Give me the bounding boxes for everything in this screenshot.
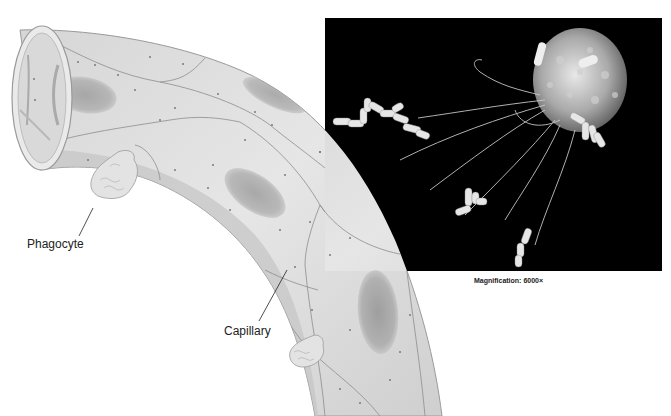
- magnification-caption: Magnification: 6000×: [474, 277, 543, 284]
- capillary-opening: [12, 26, 72, 170]
- capillary-label: Capillary: [224, 324, 271, 338]
- phagocyte-label: Phagocyte: [27, 237, 84, 251]
- sem-micrograph: [319, 18, 662, 356]
- illustration-canvas: [0, 0, 671, 416]
- phagocyte-leader-line: [79, 208, 93, 236]
